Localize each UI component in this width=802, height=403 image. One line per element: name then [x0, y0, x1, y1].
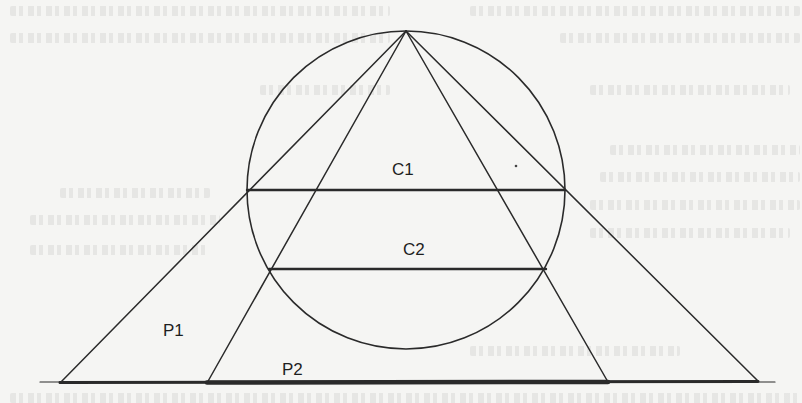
label-p2: P2 — [282, 361, 303, 378]
speck — [515, 165, 518, 168]
label-c2: C2 — [403, 241, 425, 258]
outer-triangle-right-side — [406, 31, 758, 381]
inner-triangle-right-side — [406, 31, 608, 382]
inner-triangle-base-p2 — [207, 382, 608, 383]
label-c1: C1 — [392, 161, 414, 178]
geometry-diagram — [0, 0, 802, 403]
scanned-page: C1 C2 P1 P2 — [0, 0, 802, 403]
outer-triangle-left-side — [60, 31, 406, 383]
inner-triangle-left-side — [207, 31, 406, 383]
label-p1: P1 — [163, 322, 184, 339]
